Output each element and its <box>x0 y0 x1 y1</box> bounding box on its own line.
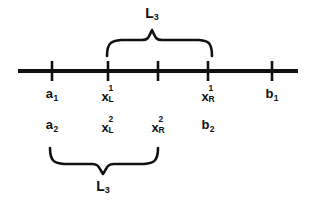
label-xL1-base: x <box>101 89 108 104</box>
label-b1-base: b <box>266 86 274 101</box>
lower-brace-label: L3 <box>96 179 110 196</box>
label-xL2-base: x <box>101 120 108 135</box>
label-xR2: x2R <box>151 119 164 134</box>
label-a1: a1 <box>46 87 58 102</box>
label-b1-sub: 1 <box>274 93 279 103</box>
label-xR1: x1R <box>201 88 214 103</box>
label-b1: b1 <box>266 87 279 102</box>
label-xR1-sup: 1 <box>209 84 214 93</box>
label-a2-base: a <box>46 117 53 132</box>
label-b2: b2 <box>202 118 215 133</box>
label-b2-base: b <box>202 117 210 132</box>
upper-brace-label-base: L <box>145 5 154 21</box>
label-a1-sub: 1 <box>53 93 58 103</box>
label-xL1: x1L <box>101 88 114 103</box>
upper-brace-label-sub: 3 <box>154 12 159 22</box>
label-xL2-scripts: 2L <box>109 119 115 132</box>
interval-diagram-figure: L3 a1 x1L x1R b1 a2 x2L x2R b2 L3 <box>0 0 312 203</box>
label-a1-base: a <box>46 86 53 101</box>
upper-brace <box>107 30 212 56</box>
label-xR1-sub: R <box>209 95 215 104</box>
label-xL2-sub: L <box>109 126 114 135</box>
upper-brace-label: L3 <box>145 6 159 23</box>
label-xL2: x2L <box>101 119 114 134</box>
label-xR1-scripts: 1R <box>209 88 215 101</box>
label-xR2-scripts: 2R <box>159 119 165 132</box>
label-a2: a2 <box>46 118 58 133</box>
label-xR2-base: x <box>151 120 158 135</box>
label-xL1-sub: L <box>109 95 114 104</box>
lower-brace-label-sub: 3 <box>105 185 110 195</box>
label-b2-sub: 2 <box>210 124 215 134</box>
label-xR1-base: x <box>201 89 208 104</box>
label-xR2-sup: 2 <box>159 115 164 124</box>
label-a2-sub: 2 <box>53 124 58 134</box>
label-xL1-sup: 1 <box>109 84 114 93</box>
label-xR2-sub: R <box>159 126 165 135</box>
label-xL2-sup: 2 <box>109 115 114 124</box>
lower-brace-label-base: L <box>96 178 105 194</box>
label-xL1-scripts: 1L <box>109 88 115 101</box>
lower-brace <box>50 148 158 174</box>
